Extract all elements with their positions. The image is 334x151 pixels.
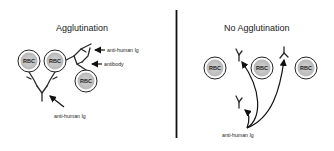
rbc-cell: RBC (204, 57, 226, 79)
rbc-label: RBC (256, 65, 268, 71)
rbc-label: RBC (209, 65, 221, 71)
anti-human-ig-icon (74, 44, 91, 62)
right-panel-no-agglutination: No Agglutination RBC RBC RBC (204, 23, 317, 138)
label-anti-human-ig: anti-human Ig (222, 132, 254, 138)
rbc-label: RBC (23, 58, 35, 64)
anti-human-ig-icon (236, 49, 242, 61)
arrow-icon (50, 96, 64, 107)
label-anti-human-ig-bottom: anti-human Ig (54, 113, 86, 119)
left-panel-agglutination: Agglutination RBC RBC RBC (18, 23, 139, 119)
rbc-label: RBC (80, 78, 92, 84)
right-panel-title: No Agglutination (224, 23, 290, 33)
rbc-cell: RBC (18, 50, 40, 72)
label-anti-human-ig-top: anti-human Ig (107, 47, 139, 53)
rbc-label: RBC (300, 65, 312, 71)
arrow-icon (245, 110, 249, 128)
antibody-icon (27, 72, 57, 86)
rbc-cell: RBC (75, 70, 97, 92)
diagram-canvas: Agglutination RBC RBC RBC (0, 0, 334, 151)
left-panel-title: Agglutination (56, 23, 108, 33)
rbc-cell: RBC (44, 50, 66, 72)
anti-human-ig-icon (280, 47, 288, 58)
anti-human-ig-icon (37, 86, 47, 101)
rbc-cell: RBC (295, 57, 317, 79)
label-antibody: antibody (104, 61, 124, 67)
antibody-icon (66, 56, 86, 70)
rbc-label: RBC (49, 58, 61, 64)
anti-human-ig-icon (236, 96, 242, 108)
rbc-cell: RBC (251, 57, 273, 79)
